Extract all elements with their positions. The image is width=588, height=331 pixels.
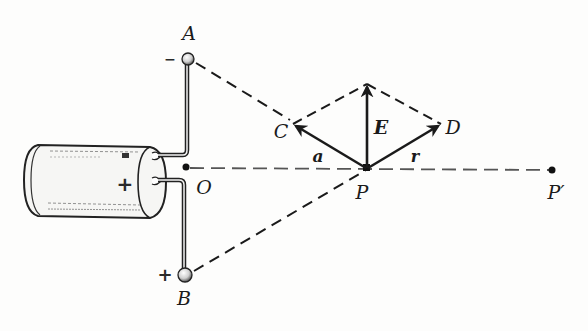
battery-body	[24, 145, 166, 218]
point-P-prime	[549, 167, 556, 174]
label-A: A	[180, 22, 196, 44]
label-r: r	[411, 147, 421, 166]
label-O: O	[196, 176, 212, 198]
label-C: C	[274, 120, 289, 142]
point-O	[183, 164, 190, 171]
dashed-line-B-to-P	[194, 170, 366, 271]
label-B: B	[176, 287, 191, 309]
vector-a-to-C	[296, 126, 366, 168]
label-a: a	[312, 146, 323, 166]
label-D: D	[444, 116, 460, 138]
label-E: E	[373, 116, 389, 138]
battery-plus-sign: +	[117, 172, 134, 196]
label-P-prime: P′	[546, 181, 565, 203]
battery: +	[24, 145, 166, 218]
wire-to-A	[158, 63, 187, 155]
sphere-A	[182, 53, 194, 65]
label-P: P	[355, 181, 370, 203]
charge-B-plus: +	[157, 264, 172, 285]
dashed-line-A-to-C	[196, 63, 290, 120]
battery-negative-mark	[122, 153, 129, 158]
dipole-field-diagram: + − + A B O P P′ C D E a r	[0, 0, 588, 331]
charge-A-minus: −	[164, 51, 176, 67]
sphere-B	[178, 268, 192, 282]
dashed-C-to-E	[293, 84, 367, 124]
